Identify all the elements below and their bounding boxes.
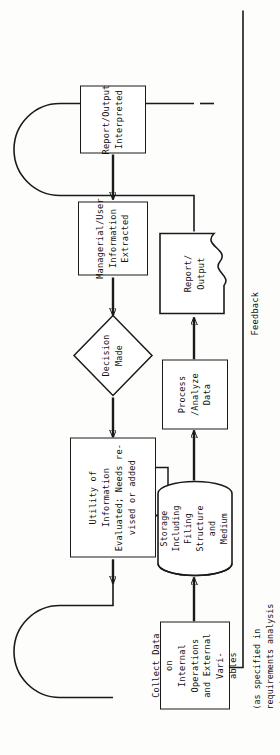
- node-label: Decision Made: [72, 313, 154, 397]
- node-label: Utility of Information Evaluated; Needs …: [87, 441, 139, 553]
- node-utility-evaluated[interactable]: Utility of Information Evaluated; Needs …: [70, 437, 156, 557]
- feedback-text: Feedback: [250, 291, 260, 335]
- flowchart-canvas: Collect Data on Internal Operations and …: [0, 0, 280, 755]
- feedback-label: Feedback: [250, 291, 260, 335]
- node-storage[interactable]: Storage Including Filing Structure and M…: [156, 479, 234, 577]
- node-label: Process /Analyze Data: [176, 363, 215, 425]
- annotation-requirements-note: (as specified in requirements analysis s…: [238, 599, 280, 709]
- node-report-output[interactable]: Report/ Output: [158, 231, 232, 315]
- node-process-analyze[interactable]: Process /Analyze Data: [162, 359, 228, 429]
- node-label: Storage Including Filing Structure and M…: [156, 479, 234, 577]
- node-label: Managerial/User Information Extracted: [94, 198, 133, 279]
- node-decision-made[interactable]: Decision Made: [72, 313, 154, 397]
- annotation-text: (as specified in requirements analysis s…: [252, 603, 280, 709]
- node-label: Report/Output Interpreted: [100, 84, 126, 154]
- node-label: Collect Data on Internal Operations and …: [150, 625, 240, 705]
- node-collect-data[interactable]: Collect Data on Internal Operations and …: [160, 621, 230, 709]
- node-managerial-info-extracted[interactable]: Managerial/User Information Extracted: [78, 201, 148, 275]
- node-label: Report/ Output: [158, 231, 242, 315]
- node-report-interpreted[interactable]: Report/Output Interpreted: [80, 85, 146, 153]
